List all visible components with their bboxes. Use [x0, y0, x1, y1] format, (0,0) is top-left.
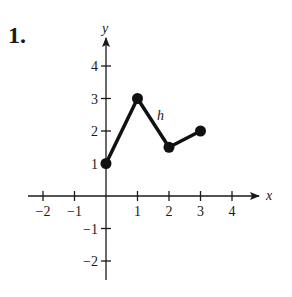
- x-tick-label: 3: [197, 204, 204, 219]
- y-axis-label: y: [100, 21, 109, 36]
- y-tick-label: 1: [91, 157, 98, 172]
- closed-point: [195, 126, 206, 137]
- coordinate-graph: x y −2−11234 −2−11234 h: [0, 0, 292, 297]
- closed-point: [164, 142, 175, 153]
- x-axis-label: x: [265, 188, 273, 203]
- y-tick-label: 2: [91, 124, 98, 139]
- closed-point: [101, 158, 112, 169]
- function-h-points: [101, 93, 207, 169]
- y-tick-label: −1: [83, 222, 98, 237]
- y-tick-label: 4: [91, 59, 98, 74]
- y-tick-label: 3: [91, 92, 98, 107]
- x-tick-label: 4: [229, 204, 236, 219]
- function-h-line: [106, 99, 201, 164]
- x-tick-label: 2: [166, 204, 173, 219]
- x-tick-label: −1: [67, 204, 82, 219]
- x-tick-label: 1: [134, 204, 141, 219]
- y-tick-label: −2: [83, 254, 98, 269]
- x-tick-label: −2: [36, 204, 51, 219]
- function-label: h: [157, 108, 164, 123]
- x-ticks: −2−11234: [36, 191, 236, 219]
- closed-point: [132, 93, 143, 104]
